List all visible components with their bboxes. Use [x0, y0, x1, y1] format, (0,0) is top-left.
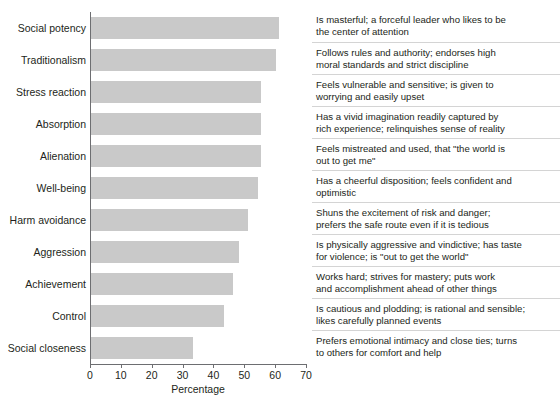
x-tick-label: 60 [269, 369, 281, 381]
bar-chart: Social potencyTraditionalismStress react… [0, 0, 560, 401]
bar-row: Control [0, 300, 310, 332]
description-text: Is physically aggressive and vindictive;… [312, 236, 560, 262]
x-tick-label: 10 [115, 369, 127, 381]
bar-track [91, 76, 310, 108]
description-text: Has a cheerful disposition; feels confid… [312, 172, 560, 198]
bar [91, 337, 193, 359]
x-axis-ticks: 010203040506070 [0, 364, 330, 384]
category-label: Traditionalism [0, 54, 86, 66]
x-tick-label: 40 [208, 369, 220, 381]
bar-row: Social potency [0, 12, 310, 44]
x-axis-title: Percentage [90, 383, 306, 395]
bar-row: Stress reaction [0, 76, 310, 108]
x-tick-label: 20 [146, 369, 158, 381]
category-label: Control [0, 310, 86, 322]
category-label: Absorption [0, 118, 86, 130]
x-tick-mark [152, 364, 153, 368]
bar-row: Absorption [0, 108, 310, 140]
description-row: Shuns the excitement of risk and danger;… [312, 202, 560, 234]
category-label: Harm avoidance [0, 214, 86, 226]
bar [91, 145, 261, 167]
bar-track [91, 236, 310, 268]
description-text: Follows rules and authority; endorses hi… [312, 44, 560, 70]
category-label: Stress reaction [0, 86, 86, 98]
description-row: Has a vivid imagination readily captured… [312, 106, 560, 138]
category-label: Achievement [0, 278, 86, 290]
bar-track [91, 204, 310, 236]
bar-track [91, 300, 310, 332]
bar [91, 49, 276, 71]
bar-row: Alienation [0, 140, 310, 172]
bar-row: Well-being [0, 172, 310, 204]
description-row: Feels mistreated and used, that "the wor… [312, 138, 560, 170]
bar-row: Aggression [0, 236, 310, 268]
description-text: Prefers emotional intimacy and close tie… [312, 332, 560, 358]
description-text: Has a vivid imagination readily captured… [312, 108, 560, 134]
category-label: Social closeness [0, 342, 86, 354]
bar-track [91, 172, 310, 204]
bar [91, 209, 248, 231]
x-tick-mark [183, 364, 184, 368]
bar-track [91, 140, 310, 172]
description-text: Is masterful; a forceful leader who like… [312, 11, 560, 37]
bar-track [91, 268, 310, 300]
description-row: Is cautious and plodding; is rational an… [312, 298, 560, 330]
bar [91, 81, 261, 103]
bar-series: Social potencyTraditionalismStress react… [0, 12, 310, 364]
bar [91, 305, 224, 327]
x-tick-mark [121, 364, 122, 368]
x-tick-mark [275, 364, 276, 368]
x-tick-label: 0 [87, 369, 93, 381]
bar [91, 241, 239, 263]
x-tick-mark [306, 364, 307, 368]
category-label: Well-being [0, 182, 86, 194]
description-row: Has a cheerful disposition; feels confid… [312, 170, 560, 202]
category-label: Social potency [0, 22, 86, 34]
bar-row: Harm avoidance [0, 204, 310, 236]
description-text: Feels vulnerable and sensitive; is given… [312, 76, 560, 102]
plot-area: Social potencyTraditionalismStress react… [0, 0, 310, 401]
x-tick-label: 30 [177, 369, 189, 381]
bar [91, 113, 261, 135]
description-text: Shuns the excitement of risk and danger;… [312, 204, 560, 230]
description-row: Follows rules and authority; endorses hi… [312, 42, 560, 74]
x-tick-mark [90, 364, 91, 368]
bar-track [91, 108, 310, 140]
bar [91, 177, 258, 199]
bar [91, 17, 279, 39]
description-text: Is cautious and plodding; is rational an… [312, 300, 560, 326]
bar-row: Traditionalism [0, 44, 310, 76]
bar [91, 273, 233, 295]
description-text: Works hard; strives for mastery; puts wo… [312, 268, 560, 294]
bar-track [91, 332, 310, 364]
x-tick-label: 70 [300, 369, 312, 381]
description-row: Is physically aggressive and vindictive;… [312, 234, 560, 266]
description-row: Works hard; strives for mastery; puts wo… [312, 266, 560, 298]
description-row: Feels vulnerable and sensitive; is given… [312, 74, 560, 106]
x-tick-mark [213, 364, 214, 368]
x-tick-mark [244, 364, 245, 368]
category-label: Alienation [0, 150, 86, 162]
description-row: Prefers emotional intimacy and close tie… [312, 330, 560, 362]
category-label: Aggression [0, 246, 86, 258]
bar-track [91, 12, 310, 44]
bar-row: Social closeness [0, 332, 310, 364]
bar-track [91, 44, 310, 76]
description-column: Is masterful; a forceful leader who like… [312, 10, 560, 366]
x-tick-label: 50 [238, 369, 250, 381]
description-text: Feels mistreated and used, that "the wor… [312, 140, 560, 166]
description-row: Is masterful; a forceful leader who like… [312, 10, 560, 42]
bar-row: Achievement [0, 268, 310, 300]
